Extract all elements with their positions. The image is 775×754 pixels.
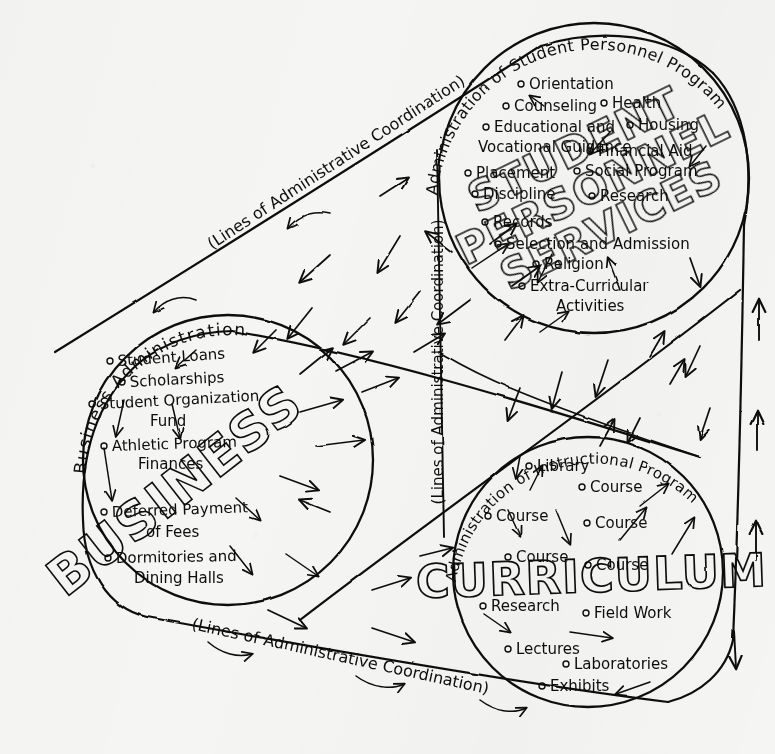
- block-word-curriculum: CURRICULUM: [415, 543, 768, 609]
- svg-text:Scholarships: Scholarships: [129, 368, 225, 391]
- band-label-center-left: (Lines of Administrative Coordination): [429, 220, 447, 505]
- list-item: Selection and Admission: [495, 235, 690, 253]
- svg-text:Counseling: Counseling: [514, 97, 597, 115]
- list-item: Student Loans: [107, 345, 226, 370]
- list-item-cont: of Fees: [146, 523, 199, 541]
- svg-text:Discipline: Discipline: [483, 185, 556, 203]
- list-item: Housing: [627, 116, 699, 134]
- svg-text:Course: Course: [496, 507, 548, 525]
- list-item-cont: Activities: [556, 297, 625, 315]
- list-item: Orientation: [518, 75, 614, 93]
- svg-text:Extra-Curricular: Extra-Curricular: [530, 277, 649, 295]
- diagram-svg: Business Administration Administration o…: [0, 0, 775, 754]
- svg-text:Religion: Religion: [544, 255, 604, 273]
- svg-text:Deferred Payment: Deferred Payment: [112, 498, 249, 521]
- svg-text:Research: Research: [491, 597, 560, 615]
- svg-text:CURRICULUM: CURRICULUM: [415, 543, 768, 609]
- bullet-icon: [483, 124, 489, 130]
- list-item: Records: [482, 213, 553, 231]
- bullet-icon: [584, 520, 590, 526]
- svg-text:Housing: Housing: [638, 116, 699, 134]
- list-item: Educational and: [483, 118, 615, 136]
- svg-text:Records: Records: [493, 213, 553, 231]
- bullet-icon: [579, 484, 585, 490]
- bullet-icon: [518, 81, 524, 87]
- bullet-icon: [503, 103, 509, 109]
- svg-text:Exhibits: Exhibits: [550, 677, 610, 695]
- list-item-cont: Fund: [150, 412, 186, 430]
- svg-text:Course: Course: [595, 514, 647, 532]
- svg-text:Social Program: Social Program: [585, 162, 698, 180]
- list-item: Lectures: [505, 640, 580, 658]
- svg-text:Health: Health: [612, 94, 661, 112]
- list-item-cont: Finances: [138, 455, 203, 473]
- svg-text:Course: Course: [516, 548, 568, 566]
- list-item: Counseling: [503, 97, 597, 115]
- bullet-icon: [107, 358, 113, 364]
- list-item-cont: Dining Halls: [134, 569, 224, 587]
- svg-text:Dormitories and: Dormitories and: [116, 547, 237, 567]
- curriculum-bottom-right-cap: [668, 640, 733, 702]
- svg-text:Library: Library: [537, 457, 590, 475]
- svg-text:Placement: Placement: [476, 164, 555, 182]
- list-item: Research: [480, 597, 560, 615]
- svg-text:Student Loans: Student Loans: [117, 345, 226, 370]
- bullet-icon: [583, 610, 589, 616]
- svg-text:Lectures: Lectures: [516, 640, 580, 658]
- bullet-icon: [563, 661, 569, 667]
- svg-text:Laboratories: Laboratories: [574, 655, 668, 673]
- list-item: Course: [579, 478, 642, 496]
- svg-text:Financial Aid: Financial Aid: [598, 142, 692, 160]
- list-item: Research: [589, 187, 669, 205]
- diagram-canvas: Business Administration Administration o…: [0, 0, 775, 754]
- bullet-icon: [601, 100, 607, 106]
- list-item: Dormitories and: [105, 547, 237, 567]
- svg-text:Orientation: Orientation: [529, 75, 614, 93]
- list-item: Deferred Payment: [101, 498, 248, 521]
- svg-text:Course: Course: [596, 556, 648, 574]
- chord-upper-b: [439, 352, 700, 457]
- bullet-icon: [505, 646, 511, 652]
- list-item: Extra-Curricular: [519, 277, 649, 295]
- list-item: Religion: [533, 255, 604, 273]
- list-item: Social Program: [574, 162, 698, 180]
- band-label-bottom: (Lines of Administrative Coordination): [190, 614, 491, 698]
- list-item: Laboratories: [563, 655, 668, 673]
- svg-text:Research: Research: [600, 187, 669, 205]
- list-item: Exhibits: [539, 677, 610, 695]
- svg-text:Educational and: Educational and: [494, 118, 615, 136]
- svg-text:Field Work: Field Work: [594, 604, 672, 622]
- list-item: Course: [584, 514, 647, 532]
- svg-text:Selection and Admission: Selection and Admission: [506, 235, 690, 253]
- list-item: Placement: [465, 164, 555, 182]
- list-item: Discipline: [472, 185, 556, 203]
- list-item: Financial Aid: [587, 142, 692, 160]
- svg-text:Course: Course: [590, 478, 642, 496]
- list-item: Field Work: [583, 604, 672, 622]
